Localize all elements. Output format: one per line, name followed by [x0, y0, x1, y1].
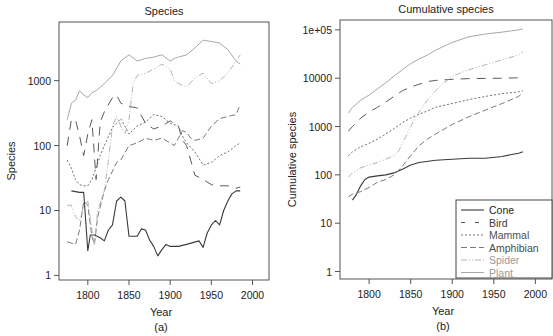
y-tick-label: 1e+05: [303, 24, 333, 36]
series-line-amphibian: [67, 104, 240, 244]
x-tick-label: 1800: [76, 289, 100, 301]
series-line-plant: [67, 40, 240, 120]
chart-title: Species: [144, 5, 184, 17]
series-line-spider: [67, 55, 240, 245]
series-line-mammal: [348, 91, 523, 156]
series-lines: [348, 29, 523, 200]
x-axis: 18001850190019502000: [357, 279, 547, 300]
legend-label-plant: Plant: [489, 267, 513, 279]
x-tick-label: 2000: [524, 288, 548, 300]
figure: Species 1101001000 18001850190019502000 …: [0, 0, 553, 336]
x-axis: 18001850190019502000: [76, 280, 264, 301]
y-axis: 1101001000100001e+05: [303, 24, 341, 278]
series-line-mammal: [67, 115, 240, 186]
panel-label: (a): [154, 321, 167, 333]
series-line-amphibian: [348, 93, 523, 197]
legend-label-cone: Cone: [489, 204, 514, 216]
legend-label-spider: Spider: [489, 254, 520, 266]
y-tick-label: 10: [39, 204, 51, 216]
y-axis-label: Cumulative species: [286, 111, 298, 207]
x-tick-label: 1800: [357, 288, 381, 300]
series-line-bird: [67, 95, 240, 188]
x-tick-label: 1950: [200, 289, 224, 301]
x-tick-label: 1950: [482, 288, 506, 300]
series-lines: [67, 40, 240, 256]
y-tick-label: 10: [320, 217, 332, 229]
x-tick-label: 1850: [399, 288, 423, 300]
x-tick-label: 2000: [241, 289, 265, 301]
y-tick-label: 10000: [303, 72, 332, 84]
y-tick-label: 1: [326, 266, 332, 278]
legend-label-amphibian: Amphibian: [489, 242, 539, 254]
x-tick-label: 1850: [117, 289, 141, 301]
y-tick-label: 1000: [309, 121, 333, 133]
legend-label-bird: Bird: [489, 217, 508, 229]
series-line-spider: [348, 52, 523, 177]
x-tick-label: 1900: [158, 289, 182, 301]
series-line-plant: [348, 29, 523, 113]
series-line-cone: [353, 152, 523, 200]
series-line-bird: [348, 78, 523, 132]
x-tick-label: 1900: [441, 288, 465, 300]
cumulative-species-chart-panel: Cumulative species 1101001000100001e+05 …: [286, 3, 552, 332]
y-axis: 1101001000: [28, 75, 59, 282]
y-tick-label: 1: [45, 269, 51, 281]
y-tick-label: 100: [33, 140, 51, 152]
species-chart-panel: Species 1101001000 18001850190019502000 …: [5, 5, 269, 333]
panel-label: (b): [436, 320, 449, 332]
x-axis-label: Year: [150, 306, 173, 318]
y-tick-label: 1000: [28, 75, 52, 87]
y-axis-label: Species: [5, 141, 17, 181]
y-tick-label: 100: [314, 169, 332, 181]
chart-title: Cumulative species: [398, 3, 494, 15]
x-axis-label: Year: [432, 305, 455, 317]
plot-frame: [59, 22, 269, 280]
legend-label-mammal: Mammal: [489, 229, 529, 241]
legend: ConeBirdMammalAmphibianSpiderPlant: [456, 200, 552, 279]
